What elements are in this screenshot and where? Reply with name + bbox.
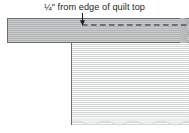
measurement-caption: ¼" from edge of quilt top [0,1,189,13]
measurement-pointer-arrow-icon [77,13,88,26]
diagram-canvas: ¼" from edge of quilt top [0,0,189,133]
quilt-top-bottom-raw-edge [71,118,189,128]
binding-strip [7,18,189,43]
stitch-line-dashed [82,24,189,26]
binding-strip-right-raw-edge [180,18,189,43]
